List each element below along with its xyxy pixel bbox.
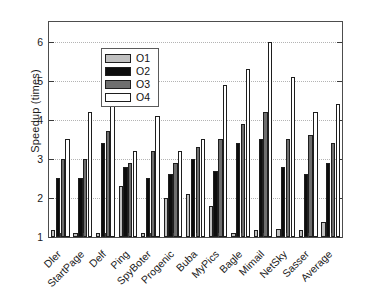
legend-swatch-o2 — [105, 67, 131, 76]
bar-o4[interactable] — [133, 151, 137, 237]
x-tick-mark — [218, 233, 219, 237]
bar-group — [51, 22, 70, 237]
x-tick-mark — [60, 233, 61, 237]
bar-o1[interactable] — [276, 229, 280, 237]
x-tick-mark — [173, 233, 174, 237]
legend-item-o1[interactable]: O1 — [105, 52, 154, 64]
legend-label-o4: O4 — [136, 92, 150, 103]
bar-o2[interactable] — [304, 174, 308, 237]
legend-label-o2: O2 — [136, 66, 150, 77]
bar-o1[interactable] — [254, 230, 258, 237]
bar-o1[interactable] — [164, 198, 168, 237]
x-tick-mark — [286, 233, 287, 237]
y-tick-label: 5 — [37, 75, 43, 86]
bar-o4[interactable] — [201, 139, 205, 237]
bar-o4[interactable] — [313, 112, 317, 237]
plot-area: 123456 O1 O2 O3 O4 — [48, 21, 343, 238]
y-tick-label: 3 — [37, 154, 43, 165]
y-tick-label: 2 — [37, 193, 43, 204]
bar-group — [276, 22, 295, 237]
x-tick-mark — [241, 233, 242, 237]
bar-o3[interactable] — [196, 147, 200, 237]
bar-o3[interactable] — [106, 131, 110, 237]
bar-o3[interactable] — [241, 124, 245, 237]
bar-o2[interactable] — [123, 167, 127, 237]
y-axis-title: Speedup (times) — [29, 31, 41, 191]
bar-o1[interactable] — [73, 233, 77, 237]
legend-item-o3[interactable]: O3 — [105, 78, 154, 90]
bar-o2[interactable] — [236, 143, 240, 237]
bar-o2[interactable] — [213, 171, 217, 237]
bar-group — [254, 22, 273, 237]
x-tick-mark — [263, 233, 264, 237]
bar-o3[interactable] — [151, 151, 155, 237]
legend-label-o1: O1 — [136, 53, 150, 64]
speedup-bar-chart-figure: Speedup (times) 123456 O1 O2 O3 O4 D — [0, 0, 369, 297]
bar-o2[interactable] — [56, 178, 60, 237]
bar-o2[interactable] — [326, 163, 330, 237]
bar-o1[interactable] — [321, 222, 325, 237]
x-tick-mark — [331, 233, 332, 237]
bar-o3[interactable] — [331, 143, 335, 237]
bar-o2[interactable] — [146, 178, 150, 237]
bar-o1[interactable] — [209, 206, 213, 237]
bar-o3[interactable] — [173, 163, 177, 237]
x-tick-mark — [308, 233, 309, 237]
bar-o2[interactable] — [101, 143, 105, 237]
legend-label-o3: O3 — [136, 79, 150, 90]
y-tick-mark — [49, 237, 54, 238]
bar-o1[interactable] — [51, 230, 55, 237]
bar-series-container — [49, 22, 342, 237]
legend-swatch-o3 — [105, 80, 131, 89]
chart-legend[interactable]: O1 O2 O3 O4 — [101, 48, 159, 107]
x-tick-mark — [83, 233, 84, 237]
bar-o3[interactable] — [263, 112, 267, 237]
bar-o4[interactable] — [336, 104, 340, 237]
bar-o3[interactable] — [61, 159, 65, 237]
bar-o2[interactable] — [191, 159, 195, 237]
bar-o1[interactable] — [119, 186, 123, 237]
bar-o1[interactable] — [299, 230, 303, 237]
bar-o2[interactable] — [281, 167, 285, 237]
bar-o3[interactable] — [308, 135, 312, 237]
bar-o1[interactable] — [186, 194, 190, 237]
bar-o4[interactable] — [246, 69, 250, 237]
bar-o1[interactable] — [141, 233, 145, 237]
bar-o3[interactable] — [83, 159, 87, 237]
bar-o4[interactable] — [223, 85, 227, 237]
bar-o3[interactable] — [218, 139, 222, 237]
bar-o2[interactable] — [78, 178, 82, 237]
bar-group — [231, 22, 250, 237]
bar-o1[interactable] — [231, 233, 235, 237]
x-tick-mark — [105, 233, 106, 237]
bar-o3[interactable] — [286, 139, 290, 237]
y-tick-label: 6 — [37, 36, 43, 47]
x-tick-mark — [128, 233, 129, 237]
legend-item-o4[interactable]: O4 — [105, 91, 154, 103]
bar-o1[interactable] — [96, 233, 100, 237]
bar-o4[interactable] — [178, 151, 182, 237]
legend-swatch-o4 — [105, 93, 131, 102]
bar-o2[interactable] — [168, 174, 172, 237]
bar-o4[interactable] — [155, 116, 159, 237]
y-tick-mark — [337, 237, 342, 238]
bar-o2[interactable] — [259, 139, 263, 237]
y-tick-label: 4 — [37, 114, 43, 125]
legend-swatch-o1 — [105, 54, 131, 63]
bar-o4[interactable] — [291, 77, 295, 237]
y-tick-label: 1 — [37, 232, 43, 243]
bar-o4[interactable] — [268, 42, 272, 237]
x-tick-mark — [196, 233, 197, 237]
bar-group — [186, 22, 205, 237]
bar-group — [209, 22, 228, 237]
bar-o4[interactable] — [65, 139, 69, 237]
bar-group — [73, 22, 92, 237]
bar-o4[interactable] — [88, 112, 92, 237]
legend-item-o2[interactable]: O2 — [105, 65, 154, 77]
bar-o3[interactable] — [128, 163, 132, 237]
x-tick-mark — [150, 233, 151, 237]
bar-group — [321, 22, 340, 237]
bar-group — [164, 22, 183, 237]
bar-group — [299, 22, 318, 237]
